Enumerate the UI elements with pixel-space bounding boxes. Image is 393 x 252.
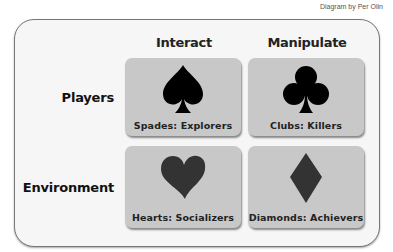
column-header-interact: Interact <box>125 35 243 50</box>
card-clubs-killers: Clubs: Killers <box>248 58 364 136</box>
card-label: Hearts: Socializers <box>125 212 241 223</box>
diamond-icon <box>289 152 323 204</box>
heart-icon <box>159 154 207 200</box>
card-label: Diamonds: Achievers <box>248 212 364 223</box>
row-header-players: Players <box>6 90 114 105</box>
column-header-manipulate: Manipulate <box>248 35 366 50</box>
card-diamonds-achievers: Diamonds: Achievers <box>248 146 364 228</box>
card-label: Spades: Explorers <box>125 120 241 131</box>
card-spades-explorers: Spades: Explorers <box>125 58 241 136</box>
spade-icon <box>160 64 206 114</box>
card-hearts-socializers: Hearts: Socializers <box>125 146 241 228</box>
club-icon <box>281 64 331 114</box>
card-label: Clubs: Killers <box>248 120 364 131</box>
row-header-environment: Environment <box>6 180 114 195</box>
credit-text: Diagram by Per Olin <box>320 3 383 10</box>
